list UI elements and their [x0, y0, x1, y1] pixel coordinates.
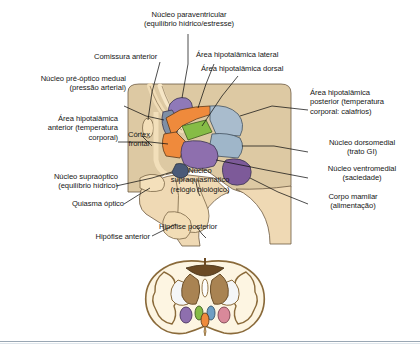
label-paraventricular: Núcleo paraventricular (equilíbrio hídri…: [105, 10, 273, 29]
label-medial-preoptic: Núcleo pré-óptico medual (pressão arteri…: [8, 74, 126, 93]
coronal-third-ventricle: [202, 279, 208, 297]
label-suprachiasmatic: Núcleo supraquiasmático (relógio biológi…: [152, 166, 248, 194]
coronal-section-inset: [146, 258, 265, 336]
label-posterior-pituitary: Hipófise posterior: [159, 222, 263, 231]
label-optic-chiasm: Quiasma óptico: [36, 199, 124, 208]
label-ventromedial: Núcleo ventromedial (saciedade): [309, 164, 415, 183]
label-lateral-area: Área hipotalâmica lateral: [196, 50, 326, 59]
label-supraoptic: Núcleo supraóptico (equilíbrio hídrico): [2, 172, 118, 191]
label-anterior-area: Área hipotalâmica anterior (temperatura …: [4, 114, 118, 142]
coronal-nucleus-pink: [218, 307, 230, 323]
label-anterior-pituitary: Hipófise anterior: [48, 232, 150, 241]
page-divider-rule-shadow: [0, 343, 420, 344]
coronal-stalk: [204, 326, 206, 336]
coronal-nucleus-violet: [180, 307, 192, 323]
ventromedial-nucleus-shape: [181, 141, 218, 169]
label-posterior-area: Área hipotalâmica posterior (temperatura…: [310, 88, 418, 116]
label-anterior-commissure: Comissura anterior: [94, 52, 204, 61]
label-dorsomedial: Núcleo dorsomedial (trato GI): [309, 138, 415, 157]
label-dorsal-area: Área hipotalâmica dorsal: [201, 64, 333, 73]
hypothalamus-figure: Núcleo paraventricular (equilíbrio hídri…: [0, 0, 420, 353]
label-mamillary-body: Corpo mamilar (alimentação): [309, 192, 397, 211]
cerebellum-shape: [236, 186, 291, 244]
label-frontal-cortex: Córtex frontal: [118, 130, 160, 149]
